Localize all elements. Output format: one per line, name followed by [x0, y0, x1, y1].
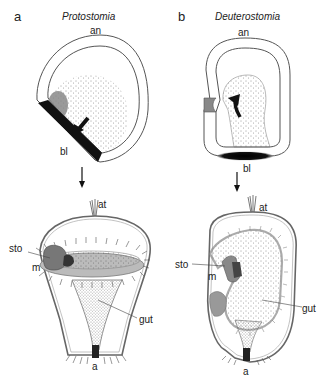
- panel-title-protostomia: Protostomia: [62, 11, 116, 22]
- label-at: at: [98, 199, 107, 210]
- label-an: an: [90, 25, 101, 36]
- down-arrow-icon: [79, 181, 85, 188]
- label-gut: gut: [302, 303, 316, 314]
- panel-letter-a: a: [14, 9, 22, 24]
- label-bl: bl: [60, 146, 68, 157]
- label-a: a: [243, 366, 249, 377]
- diagram-canvas: a Protostomia an bl: [0, 0, 325, 383]
- blastopore: [217, 152, 273, 161]
- label-m: m: [32, 262, 40, 273]
- anus: [92, 345, 99, 358]
- panel-b: b Deuterostomia an bl: [175, 9, 316, 377]
- anus: [243, 348, 250, 361]
- down-arrow-icon: [234, 185, 240, 192]
- label-bl: bl: [243, 163, 251, 174]
- label-at: at: [259, 202, 268, 213]
- apical-tuft: [248, 195, 256, 213]
- label-gut: gut: [139, 314, 153, 325]
- deuterostome-gastrula: [204, 38, 290, 161]
- apical-tuft: [90, 199, 98, 216]
- label-a: a: [92, 361, 98, 372]
- protostome-gastrula: [37, 35, 148, 162]
- stomodeum: [43, 245, 66, 270]
- panel-a: a Protostomia an bl: [9, 9, 153, 372]
- label-an: an: [238, 27, 249, 38]
- label-sto: sto: [175, 259, 189, 270]
- protostome-larva: [28, 199, 150, 364]
- label-sto: sto: [9, 243, 23, 254]
- panel-title-deuterostomia: Deuterostomia: [215, 11, 280, 22]
- panel-letter-b: b: [178, 9, 185, 24]
- label-m: m: [208, 271, 216, 282]
